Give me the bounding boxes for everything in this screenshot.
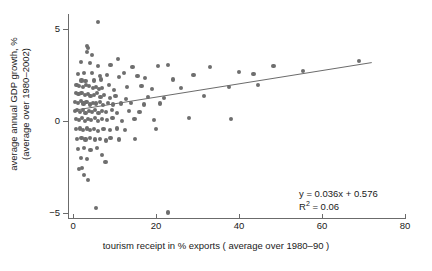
scatter-point xyxy=(119,101,123,105)
y-tick-mark xyxy=(63,213,68,214)
scatter-point xyxy=(202,94,206,98)
y-axis-title-line1: average annual GDP growth, % xyxy=(8,0,20,220)
scatter-point xyxy=(98,137,102,141)
scatter-point xyxy=(179,86,183,90)
scatter-point xyxy=(75,137,79,141)
scatter-point xyxy=(110,116,114,120)
scatter-point xyxy=(88,148,92,152)
scatter-point xyxy=(117,137,121,141)
scatter-point xyxy=(150,87,154,91)
scatter-point xyxy=(187,116,191,120)
scatter-point xyxy=(82,71,86,75)
scatter-point xyxy=(88,61,92,65)
scatter-point xyxy=(105,118,109,122)
scatter-point xyxy=(101,103,105,107)
scatter-point xyxy=(103,160,107,164)
scatter-point xyxy=(271,64,275,68)
scatter-point xyxy=(99,77,103,81)
scatter-point xyxy=(116,57,120,61)
scatter-point xyxy=(166,210,170,214)
scatter-point xyxy=(101,127,105,131)
scatter-point xyxy=(117,75,121,79)
scatter-point xyxy=(108,136,112,140)
scatter-point xyxy=(105,73,109,77)
scatter-point xyxy=(108,63,112,67)
scatter-point xyxy=(237,70,241,74)
scatter-point xyxy=(104,110,108,114)
y-tick-label: 5 xyxy=(20,24,60,34)
x-axis-title: tourism receipt in % exports ( average o… xyxy=(0,240,432,251)
scatter-point xyxy=(256,83,260,87)
scatter-point xyxy=(132,117,136,121)
scatter-point xyxy=(125,85,129,89)
scatter-point xyxy=(127,109,131,113)
scatter-point xyxy=(162,96,166,100)
scatter-plot-figure: average annual GDP growth, % (average ov… xyxy=(0,0,432,271)
scatter-point xyxy=(79,60,83,64)
scatter-point xyxy=(123,128,127,132)
scatter-point xyxy=(93,137,97,141)
scatter-point xyxy=(85,50,89,54)
scatter-point xyxy=(76,147,80,151)
scatter-point xyxy=(357,59,361,63)
scatter-point xyxy=(113,94,117,98)
scatter-point xyxy=(100,117,104,121)
scatter-point xyxy=(96,64,100,68)
scatter-point xyxy=(130,65,134,69)
scatter-point xyxy=(115,126,119,130)
scatter-point xyxy=(106,101,110,105)
scatter-point xyxy=(100,86,104,90)
scatter-point xyxy=(208,65,212,69)
scatter-point xyxy=(85,157,89,161)
scatter-point xyxy=(100,153,104,157)
scatter-point xyxy=(301,69,305,73)
scatter-point xyxy=(96,20,100,24)
y-tick-mark xyxy=(63,29,68,30)
regression-equation: y = 0.036x + 0.576 xyxy=(299,188,378,201)
scatter-point xyxy=(152,118,156,122)
y-tick-label: 0 xyxy=(20,116,60,126)
scatter-point xyxy=(115,111,119,115)
scatter-point xyxy=(129,101,133,105)
scatter-point xyxy=(95,146,99,150)
scatter-point xyxy=(154,127,158,131)
scatter-point xyxy=(227,85,231,89)
scatter-point xyxy=(108,96,112,100)
scatter-point xyxy=(166,63,170,67)
scatter-point xyxy=(191,73,195,77)
scatter-point xyxy=(76,72,80,76)
scatter-point xyxy=(142,102,146,106)
scatter-point xyxy=(156,64,160,68)
scatter-point xyxy=(251,72,255,76)
scatter-point xyxy=(133,137,137,141)
scatter-point xyxy=(82,146,86,150)
scatter-point xyxy=(90,71,94,75)
scatter-point xyxy=(137,110,141,114)
scatter-point xyxy=(96,129,100,133)
scatter-point xyxy=(122,71,126,75)
scatter-point xyxy=(111,102,115,106)
scatter-point xyxy=(80,166,84,170)
scatter-point xyxy=(92,78,96,82)
scatter-point xyxy=(107,83,111,87)
scatter-point xyxy=(86,178,90,182)
y-tick-mark xyxy=(63,121,68,122)
scatter-point xyxy=(94,206,98,210)
scatter-point xyxy=(110,108,114,112)
y-tick-label: −5 xyxy=(20,208,60,218)
scatter-point xyxy=(139,84,143,88)
scatter-point xyxy=(124,97,128,101)
scatter-point xyxy=(146,95,150,99)
scatter-point xyxy=(120,119,124,123)
r-squared-value: R2 = 0.06 xyxy=(299,201,378,214)
scatter-point xyxy=(82,173,86,177)
scatter-point xyxy=(135,74,139,78)
scatter-point xyxy=(108,128,112,132)
scatter-point xyxy=(102,93,106,97)
scatter-point xyxy=(171,77,175,81)
scatter-point xyxy=(229,117,233,121)
scatter-point xyxy=(143,76,147,80)
scatter-point xyxy=(79,156,83,160)
scatter-point xyxy=(158,101,162,105)
scatter-point xyxy=(112,88,116,92)
